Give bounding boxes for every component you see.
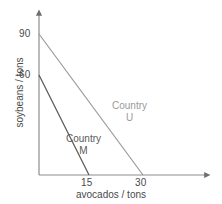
series-label-country-u-line1: Country (112, 100, 147, 112)
x-axis-title: avocados / tons (0, 189, 222, 200)
series-label-country-m-line2: M (66, 145, 101, 157)
series-label-country-u: Country U (112, 100, 147, 124)
series-label-country-m: Country M (66, 133, 101, 157)
x-axis-tick-label-30: 30 (135, 177, 147, 188)
series-label-country-u-line2: U (112, 112, 147, 124)
series-line-country-m (39, 75, 89, 175)
y-axis-title: soybeans / tons (14, 33, 25, 153)
series-label-country-m-line1: Country (66, 133, 101, 145)
ppf-chart: 90 60 15 30 avocados / tons soybeans / t… (0, 0, 222, 204)
x-axis-tick-label-15: 15 (81, 177, 93, 188)
chart-canvas (0, 0, 222, 204)
